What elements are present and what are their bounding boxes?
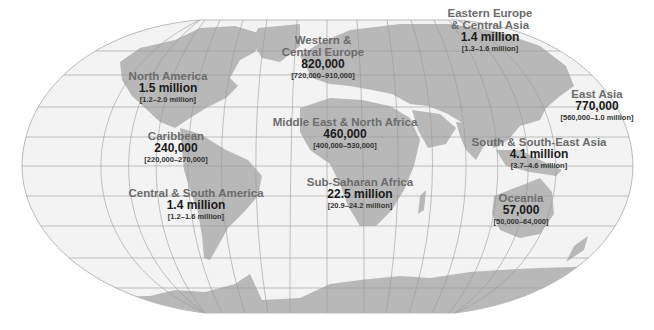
region-name: Western & xyxy=(282,34,364,46)
region-range: [20.9–24.2 million] xyxy=(307,202,413,210)
region-label-western-central-europe: Western & Central Europe 820,000 [720,00… xyxy=(282,34,364,80)
region-label-central-south-america: Central & South America 1.4 million [1.2… xyxy=(128,187,263,221)
region-label-north-america: North America 1.5 million [1.2–2.0 milli… xyxy=(129,70,208,104)
region-value: 4.1 million xyxy=(471,148,606,161)
region-range: [50,000–64,000] xyxy=(493,218,548,226)
region-value: 1.5 million xyxy=(129,82,208,95)
region-range: [720,000–910,000] xyxy=(282,72,364,80)
region-value: 1.4 million xyxy=(448,31,533,44)
region-label-east-asia: East Asia 770,000 [560,000–1.0 million] xyxy=(561,88,634,122)
region-value: 57,000 xyxy=(493,204,548,217)
region-range: [1.2–1.6 million] xyxy=(128,213,263,221)
region-value: 770,000 xyxy=(561,100,634,113)
region-name: Eastern Europe xyxy=(448,7,533,19)
region-range: [560,000–1.0 million] xyxy=(561,114,634,122)
region-label-caribbean: Caribbean 240,000 [220,000–270,000] xyxy=(144,130,207,164)
region-range: [3.7–4.6 million] xyxy=(471,162,606,170)
region-range: [220,000–270,000] xyxy=(144,156,207,164)
region-value: 460,000 xyxy=(273,128,418,141)
region-label-middle-east-north-africa: Middle East & North Africa 460,000 [400,… xyxy=(273,116,418,150)
region-label-sub-saharan-africa: Sub-Saharan Africa 22.5 million [20.9–24… xyxy=(307,176,413,210)
region-value: 240,000 xyxy=(144,142,207,155)
region-value: 820,000 xyxy=(282,58,364,71)
region-value: 22.5 million xyxy=(307,188,413,201)
region-range: [400,000–530,000] xyxy=(273,142,418,150)
region-label-eastern-europe-central-asia: Eastern Europe & Central Asia 1.4 millio… xyxy=(448,7,533,53)
region-range: [1.3–1.6 million] xyxy=(448,45,533,53)
region-value: 1.4 million xyxy=(128,199,263,212)
region-range: [1.2–2.0 million] xyxy=(129,96,208,104)
region-label-south-southeast-asia: South & South-East Asia 4.1 million [3.7… xyxy=(471,136,606,170)
region-label-oceania: Oceania 57,000 [50,000–64,000] xyxy=(493,192,548,226)
